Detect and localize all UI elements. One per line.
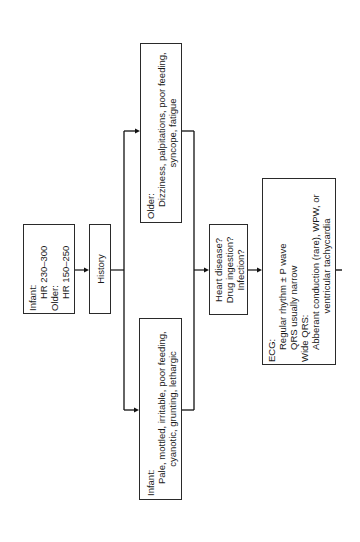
heart-rate-text: Infant: HR 230–300 Older: HR 150–250: [27, 227, 71, 311]
ecg-line: Regular rhythm ± P wave: [277, 182, 288, 362]
history-label: History: [95, 227, 106, 311]
infant-hr-range: HR 230–300: [38, 227, 49, 311]
ecg-box: ECG: Regular rhythm ± P wave QRS usually…: [262, 178, 336, 365]
history-box: History: [89, 224, 111, 314]
ecg-line: QRS usually narrow: [288, 182, 299, 362]
ecg-text: ECG: Regular rhythm ± P wave QRS usually…: [266, 182, 332, 362]
older-symptoms-box: Older: Dizziness, palpitations, poor fee…: [140, 43, 182, 223]
infant-symptoms-line: Pale, mottled, irritable, poor feeding,: [155, 322, 166, 496]
cause-infection: Infection?: [234, 227, 245, 313]
ecg-heading: ECG:: [266, 182, 277, 362]
older-symptoms-heading: Older:: [145, 47, 156, 219]
older-symptoms-text: Older: Dizziness, palpitations, poor fee…: [145, 47, 178, 219]
older-symptoms-line: syncope, fatigue: [167, 47, 178, 219]
heart-rate-box: Infant: HR 230–300 Older: HR 150–250: [23, 224, 75, 314]
infant-symptoms-text: Infant: Pale, mottled, irritable, poor f…: [144, 322, 177, 496]
infant-label: Infant:: [27, 227, 38, 311]
infant-symptoms-box: Infant: Pale, mottled, irritable, poor f…: [139, 318, 182, 500]
infant-symptoms-heading: Infant:: [144, 322, 155, 496]
causes-text: Heart disease? Drug ingestion? Infection…: [212, 227, 245, 313]
wide-qrs-line: Abberant conduction (rare), WPW, or: [310, 182, 321, 362]
infant-symptoms-line: cyanotic, grunting, lethargic: [166, 322, 177, 496]
older-symptoms-line: Dizziness, palpitations, poor feeding,: [156, 47, 167, 219]
older-label: Older:: [49, 227, 60, 311]
cause-drug-ingestion: Drug ingestion?: [223, 227, 234, 313]
causes-box: Heart disease? Drug ingestion? Infection…: [209, 224, 248, 315]
wide-qrs-line: ventricular tachycardia: [321, 182, 332, 362]
older-hr-range: HR 150–250: [60, 227, 71, 311]
wide-qrs-heading: Wide QRS:: [299, 182, 310, 362]
cause-heart-disease: Heart disease?: [212, 227, 223, 313]
